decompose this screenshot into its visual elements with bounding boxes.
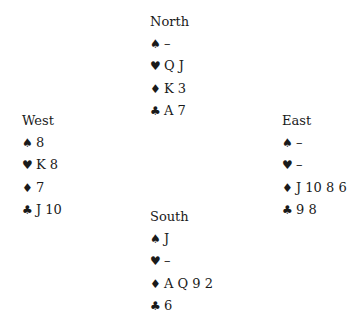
club-icon: ♣ (282, 200, 296, 222)
heart-icon: ♥ (22, 155, 36, 177)
spades-row: ♠– (282, 132, 347, 155)
heart-icon: ♥ (150, 56, 164, 78)
clubs-row: ♣9 8 (282, 199, 347, 222)
hearts-row: ♥– (150, 250, 213, 273)
diamonds-row: ♦7 (22, 177, 62, 200)
club-icon: ♣ (150, 296, 164, 315)
heart-icon: ♥ (282, 155, 296, 177)
heart-icon: ♥ (150, 251, 164, 273)
hearts-row: ♥– (282, 154, 347, 177)
spade-icon: ♠ (22, 133, 36, 155)
hand-south: South ♠J ♥– ♦A Q 9 2 ♣6 (150, 206, 213, 315)
diamonds-row: ♦A Q 9 2 (150, 273, 213, 296)
diamonds-row: ♦J 10 8 6 (282, 177, 347, 200)
club-icon: ♣ (22, 200, 36, 222)
hearts-row: ♥K 8 (22, 154, 62, 177)
clubs-row: ♣J 10 (22, 199, 62, 222)
diamonds-row: ♦K 3 (150, 78, 189, 101)
hand-west: West ♠8 ♥K 8 ♦7 ♣J 10 (22, 110, 62, 222)
spades-row: ♠– (150, 33, 189, 56)
hand-east: East ♠– ♥– ♦J 10 8 6 ♣9 8 (282, 110, 347, 222)
player-name: West (22, 110, 62, 132)
diamond-icon: ♦ (150, 79, 164, 101)
hearts-row: ♥Q J (150, 55, 189, 78)
hand-north: North ♠– ♥Q J ♦K 3 ♣A 7 (150, 11, 189, 123)
diamond-icon: ♦ (150, 274, 164, 296)
clubs-row: ♣A 7 (150, 100, 189, 123)
spade-icon: ♠ (150, 34, 164, 56)
spade-icon: ♠ (282, 133, 296, 155)
player-name: North (150, 11, 189, 33)
player-name: South (150, 206, 213, 228)
diamond-icon: ♦ (282, 178, 296, 200)
spades-row: ♠J (150, 228, 213, 251)
player-name: East (282, 110, 347, 132)
clubs-row: ♣6 (150, 295, 213, 315)
spade-icon: ♠ (150, 229, 164, 251)
club-icon: ♣ (150, 101, 164, 123)
diamond-icon: ♦ (22, 178, 36, 200)
spades-row: ♠8 (22, 132, 62, 155)
